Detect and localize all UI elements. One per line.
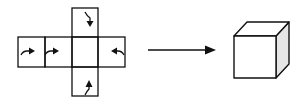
net-face-bottom bbox=[72, 67, 98, 96]
curved-up-arrow-icon bbox=[85, 80, 93, 95]
curved-right-arrow-icon bbox=[21, 48, 35, 56]
curved-left-arrow-icon bbox=[111, 48, 124, 56]
cube-net-diagram bbox=[0, 0, 303, 102]
right-arrow-icon bbox=[148, 46, 216, 55]
net-face-left bbox=[45, 37, 72, 67]
cube-icon bbox=[234, 22, 289, 78]
curved-right-arrow-icon bbox=[45, 48, 59, 56]
net-face-center bbox=[72, 37, 98, 67]
curved-down-arrow-icon bbox=[85, 12, 94, 27]
cube-front-face bbox=[234, 36, 276, 78]
cube-net bbox=[18, 8, 125, 96]
